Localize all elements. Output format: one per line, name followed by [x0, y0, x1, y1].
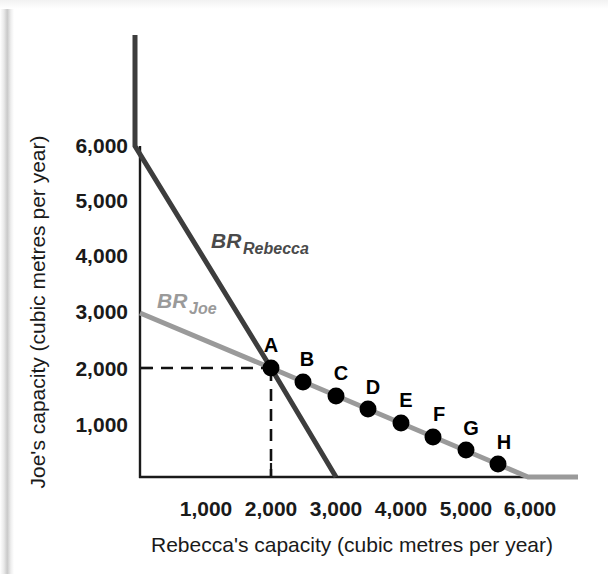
y-axis-title: Joe's capacity (cubic metres per year) — [26, 136, 49, 489]
chart-svg: 6,000 5,000 4,000 3,000 2,000 1,000 1,00… — [0, 0, 608, 574]
y-tick-label-3000: 3,000 — [75, 300, 128, 323]
br-joe-curve — [140, 313, 578, 477]
y-tick-label-2000: 2,000 — [75, 357, 128, 380]
br-rebecca-label-main: BR — [211, 229, 242, 252]
data-point-d[interactable] — [360, 401, 377, 418]
br-rebecca-label-group: BR Rebecca — [211, 229, 309, 257]
x-tick-label-3000: 3,000 — [310, 497, 363, 520]
x-tick-label-1000: 1,000 — [180, 497, 233, 520]
data-point-g[interactable] — [458, 442, 475, 459]
dashed-guides-group — [141, 368, 271, 476]
x-tick-labels-group: 1,000 2,000 3,000 4,000 5,000 6,000 — [180, 497, 557, 520]
data-point-f[interactable] — [425, 429, 442, 446]
data-point-h[interactable] — [490, 456, 507, 473]
y-tick-label-5000: 5,000 — [75, 189, 128, 212]
data-point-label-e: E — [399, 389, 412, 411]
x-tick-label-5000: 5,000 — [440, 497, 493, 520]
data-point-label-a: A — [264, 334, 278, 356]
data-point-labels-group: A B C D E F G H — [264, 334, 511, 453]
y-tick-label-4000: 4,000 — [75, 244, 128, 267]
x-axis-title: Rebecca's capacity (cubic metres per yea… — [151, 533, 553, 556]
br-joe-label-main: BR — [157, 289, 188, 312]
data-point-a[interactable] — [263, 360, 280, 377]
x-tick-label-4000: 4,000 — [375, 497, 428, 520]
data-point-label-c: C — [334, 362, 348, 384]
y-tick-label-1000: 1,000 — [75, 413, 128, 436]
y-tick-labels-group: 6,000 5,000 4,000 3,000 2,000 1,000 — [75, 134, 128, 436]
x-tick-label-6000: 6,000 — [504, 497, 557, 520]
br-rebecca-label-sub: Rebecca — [243, 240, 309, 257]
data-point-label-h: H — [497, 431, 511, 453]
br-joe-curve-group — [140, 313, 578, 477]
data-point-label-b: B — [300, 348, 314, 370]
x-tick-label-2000: 2,000 — [245, 497, 298, 520]
br-joe-label-group: BR Joe — [157, 289, 217, 317]
br-joe-label-sub: Joe — [189, 300, 217, 317]
data-point-c[interactable] — [328, 388, 345, 405]
y-tick-label-6000: 6,000 — [75, 134, 128, 157]
figure-container: 6,000 5,000 4,000 3,000 2,000 1,000 1,00… — [0, 0, 608, 574]
data-point-label-g: G — [463, 417, 479, 439]
data-point-e[interactable] — [393, 415, 410, 432]
data-point-label-d: D — [366, 376, 380, 398]
data-point-label-f: F — [433, 403, 445, 425]
data-point-b[interactable] — [295, 374, 312, 391]
